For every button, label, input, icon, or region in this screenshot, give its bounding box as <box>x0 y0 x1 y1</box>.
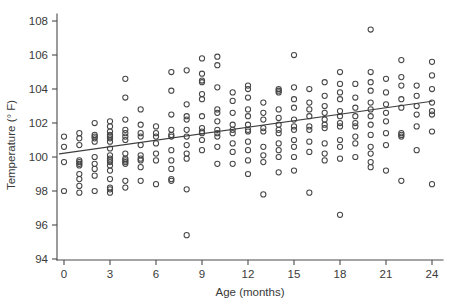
data-point-marker <box>245 139 250 144</box>
data-point-marker <box>261 144 266 149</box>
data-point-marker <box>199 97 204 102</box>
data-point-marker <box>77 143 82 148</box>
data-point-marker <box>383 143 388 148</box>
data-point-marker <box>414 83 419 88</box>
data-point-marker <box>123 137 128 142</box>
x-tick-label: 21 <box>380 268 393 280</box>
data-point-marker <box>337 109 342 114</box>
data-point-marker <box>307 139 312 144</box>
data-point-marker <box>230 98 235 103</box>
data-point-marker <box>123 76 128 81</box>
data-point-marker <box>215 134 220 139</box>
data-point-marker <box>368 100 373 105</box>
data-point-marker <box>230 131 235 136</box>
data-point-marker <box>169 148 174 153</box>
data-point-marker <box>276 170 281 175</box>
x-tick-label: 6 <box>153 268 159 280</box>
data-point-marker <box>230 149 235 154</box>
data-point-marker <box>399 75 404 80</box>
x-tick-label: 9 <box>199 268 205 280</box>
data-point-marker <box>199 137 204 142</box>
data-point-marker <box>184 117 189 122</box>
data-point-marker <box>230 141 235 146</box>
data-point-marker <box>276 131 281 136</box>
data-point-marker <box>307 107 312 112</box>
data-point-marker <box>245 114 250 119</box>
data-point-marker <box>215 144 220 149</box>
data-point-marker <box>291 127 296 132</box>
data-point-marker <box>261 160 266 165</box>
data-point-marker <box>153 151 158 156</box>
data-point-marker <box>353 95 358 100</box>
data-point-marker <box>77 177 82 182</box>
data-point-marker <box>199 71 204 76</box>
data-point-marker <box>383 102 388 107</box>
data-point-marker <box>353 105 358 110</box>
data-point-marker <box>353 141 358 146</box>
data-point-marker <box>107 168 112 173</box>
data-point-marker <box>383 110 388 115</box>
data-point-marker <box>414 124 419 129</box>
data-point-marker <box>399 97 404 102</box>
data-point-marker <box>307 149 312 154</box>
data-point-marker <box>368 80 373 85</box>
data-point-marker <box>353 124 358 129</box>
data-point-marker <box>138 122 143 127</box>
y-tick-label: 94 <box>35 253 48 265</box>
x-axis: 03691215182124 <box>57 260 443 280</box>
data-point-marker <box>291 137 296 142</box>
data-point-marker <box>199 56 204 61</box>
data-point-marker <box>291 154 296 159</box>
data-points-layer <box>61 27 434 238</box>
data-point-marker <box>383 131 388 136</box>
data-point-marker <box>368 165 373 170</box>
data-point-marker <box>368 144 373 149</box>
data-point-marker <box>337 212 342 217</box>
data-point-marker <box>138 178 143 183</box>
data-point-marker <box>184 127 189 132</box>
data-point-marker <box>107 124 112 129</box>
data-point-marker <box>215 161 220 166</box>
data-point-marker <box>399 83 404 88</box>
data-point-marker <box>153 134 158 139</box>
y-tick-label: 96 <box>35 219 48 231</box>
data-point-marker <box>92 188 97 193</box>
data-point-marker <box>322 93 327 98</box>
data-point-marker <box>138 165 143 170</box>
y-tick-label: 108 <box>29 15 48 27</box>
data-point-marker <box>399 58 404 63</box>
data-point-marker <box>123 151 128 156</box>
data-point-marker <box>368 88 373 93</box>
data-point-marker <box>184 187 189 192</box>
data-point-marker <box>368 132 373 137</box>
data-point-marker <box>77 183 82 188</box>
data-point-marker <box>414 112 419 117</box>
data-point-marker <box>353 114 358 119</box>
data-point-marker <box>337 69 342 74</box>
data-point-marker <box>261 192 266 197</box>
data-point-marker <box>92 139 97 144</box>
data-point-marker <box>414 148 419 153</box>
y-tick-label: 100 <box>29 151 48 163</box>
scatter-plot-figure: 949698100102104106108 03691215182124 Tem… <box>0 0 450 307</box>
y-tick-label: 106 <box>29 49 48 61</box>
data-point-marker <box>184 233 189 238</box>
data-point-marker <box>77 136 82 141</box>
data-point-marker <box>429 112 434 117</box>
data-point-marker <box>368 160 373 165</box>
data-point-marker <box>383 119 388 124</box>
data-point-marker <box>184 68 189 73</box>
data-point-marker <box>261 129 266 134</box>
data-point-marker <box>353 154 358 159</box>
data-point-marker <box>245 148 250 153</box>
data-point-marker <box>322 158 327 163</box>
data-point-marker <box>184 102 189 107</box>
data-point-marker <box>107 163 112 168</box>
data-point-marker <box>215 85 220 90</box>
data-point-marker <box>383 168 388 173</box>
data-point-marker <box>368 69 373 74</box>
data-point-marker <box>199 148 204 153</box>
data-point-marker <box>261 110 266 115</box>
x-tick-label: 15 <box>288 268 301 280</box>
x-tick-label: 24 <box>426 268 439 280</box>
